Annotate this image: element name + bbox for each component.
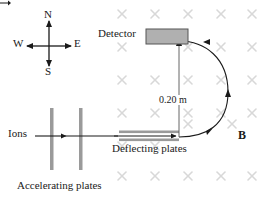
field-mark-x bbox=[118, 109, 126, 117]
field-mark-x bbox=[151, 172, 159, 180]
field-mark-x bbox=[184, 10, 192, 18]
accelerating-plate-left bbox=[50, 108, 54, 170]
field-mark-x bbox=[118, 76, 126, 84]
field-mark-x bbox=[151, 76, 159, 84]
deflecting-plate-bottom bbox=[119, 139, 179, 142]
detector-label: Detector bbox=[98, 28, 136, 39]
mass-spectrometer-diagram: N S W E Detector 0.20 m Ions Deflecting … bbox=[0, 0, 261, 201]
field-mark-x bbox=[248, 109, 256, 117]
dimension-line-group bbox=[176, 37, 182, 137]
compass-rose bbox=[27, 21, 71, 66]
detector-box bbox=[146, 29, 188, 44]
deflecting-plate-top bbox=[119, 131, 179, 134]
magnetic-field-vector-arrow-icon bbox=[0, 0, 11, 6]
field-mark-x bbox=[184, 109, 192, 117]
field-mark-x bbox=[184, 76, 192, 84]
field-mark-x bbox=[151, 109, 159, 117]
field-mark-x bbox=[217, 172, 225, 180]
field-mark-x bbox=[118, 10, 126, 18]
field-mark-x bbox=[217, 76, 225, 84]
field-mark-x bbox=[118, 43, 126, 51]
magnetic-field-label: B bbox=[238, 129, 246, 141]
field-mark-x bbox=[118, 172, 126, 180]
field-mark-x bbox=[184, 172, 192, 180]
compass-label-north: N bbox=[44, 9, 52, 20]
accelerating-plates-label: Accelerating plates bbox=[17, 180, 102, 191]
field-mark-x bbox=[248, 43, 256, 51]
field-mark-x bbox=[248, 76, 256, 84]
field-mark-x bbox=[151, 10, 159, 18]
field-mark-x bbox=[248, 10, 256, 18]
field-mark-x bbox=[217, 43, 225, 51]
compass-label-east: E bbox=[74, 38, 81, 49]
field-mark-x bbox=[228, 120, 236, 128]
ions-label: Ions bbox=[8, 128, 27, 139]
field-mark-x bbox=[248, 172, 256, 180]
trajectory-arrow-top bbox=[203, 39, 210, 45]
deflecting-plates-label: Deflecting plates bbox=[112, 143, 187, 154]
trajectory-arrow-bottom bbox=[206, 128, 213, 135]
dimension-label: 0.20 m bbox=[158, 95, 188, 105]
field-mark-x bbox=[217, 10, 225, 18]
accelerating-plates-group bbox=[50, 108, 83, 170]
trajectory-arrow-right bbox=[225, 89, 231, 97]
compass-label-south: S bbox=[45, 66, 51, 77]
accelerating-plate-right bbox=[79, 108, 83, 170]
field-mark-x bbox=[184, 120, 192, 128]
compass-label-west: W bbox=[13, 38, 23, 49]
